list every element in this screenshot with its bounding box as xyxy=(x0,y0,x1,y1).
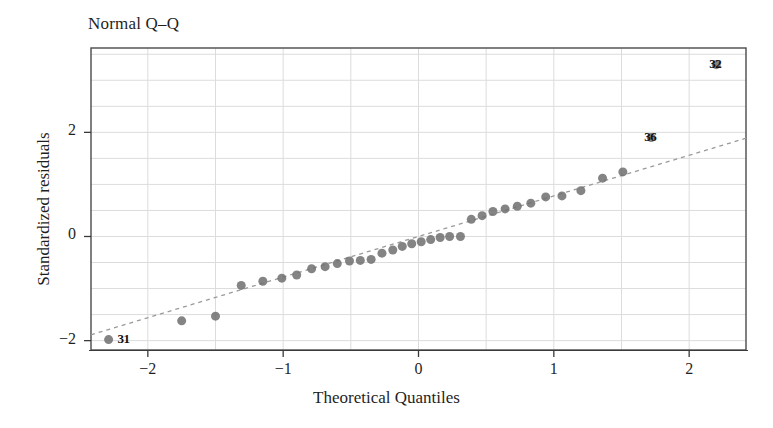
y-tick-label: −2 xyxy=(36,330,76,348)
x-tick-label: 0 xyxy=(399,360,439,378)
point-label: 31 xyxy=(118,331,130,347)
point-label: 32 xyxy=(709,56,721,72)
x-tick-label: 2 xyxy=(669,360,709,378)
x-axis-label: Theoretical Quantiles xyxy=(0,388,773,408)
x-tick-label: 1 xyxy=(534,360,574,378)
y-tick-label: 2 xyxy=(36,121,76,139)
gridlines xyxy=(91,48,746,350)
y-axis-label-container: Standardized residuals xyxy=(34,49,54,369)
plot-canvas xyxy=(0,0,773,428)
y-axis-label: Standardized residuals xyxy=(34,132,53,285)
x-tick-label: −1 xyxy=(263,360,303,378)
data-points xyxy=(104,60,721,344)
qq-plot-figure: Normal Q–Q Theoretical Quantiles Standar… xyxy=(0,0,773,428)
x-tick-label: −2 xyxy=(128,360,168,378)
y-tick-label: 0 xyxy=(36,225,76,243)
point-label: 36 xyxy=(644,129,656,145)
